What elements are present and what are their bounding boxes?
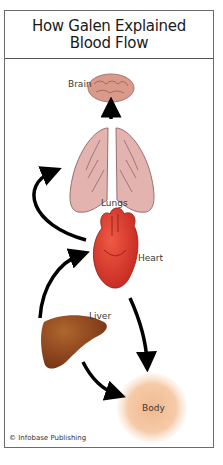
arrow-liver-to-body (83, 362, 116, 394)
arrow-liver-to-heart (40, 255, 80, 318)
heart-icon (93, 208, 138, 288)
brain-label: Brain (68, 79, 92, 89)
arrow-heart-to-body (130, 298, 147, 362)
lungs-label: Lungs (101, 198, 128, 208)
brain-icon (88, 74, 134, 102)
copyright-credit: © Infobase Publishing (9, 434, 86, 442)
heart-label: Heart (138, 253, 163, 263)
blood-flow-diagram (0, 0, 223, 465)
liver-icon (41, 315, 107, 368)
body-label: Body (142, 403, 165, 413)
liver-label: Liver (89, 311, 111, 321)
